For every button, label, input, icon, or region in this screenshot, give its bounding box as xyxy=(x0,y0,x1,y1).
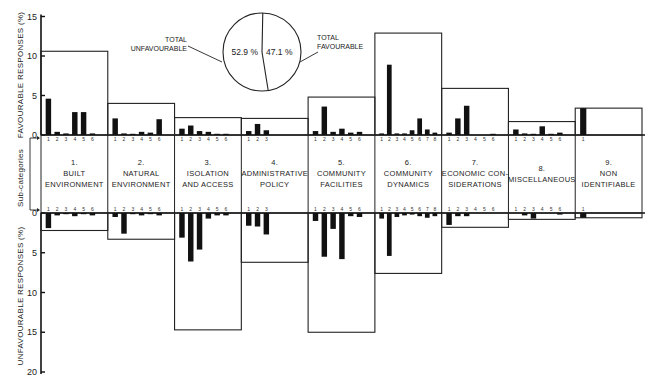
unfavourable-bar xyxy=(417,213,422,216)
subcategory-number: 4 xyxy=(140,136,143,142)
pie-label-unfavourable: UNFAVOURABLE xyxy=(131,45,188,52)
subcategory-number: 3 xyxy=(332,136,335,142)
favourable-bar xyxy=(330,132,335,135)
unfavourable-bar xyxy=(130,213,135,214)
category-label: 8. xyxy=(538,164,545,173)
subcategory-number: 6 xyxy=(91,136,94,142)
pie-leader-line xyxy=(300,52,318,62)
unfavourable-axis-title: UNFAVOURABLE RESPONSES (%) xyxy=(16,227,25,366)
subcategory-number: 2 xyxy=(256,136,259,142)
unfavourable-bar xyxy=(246,213,251,226)
unfavourable-bar xyxy=(330,213,335,229)
favourable-bar xyxy=(348,133,353,135)
subcategory-number: 1 xyxy=(514,136,517,142)
subcategory-number: 5 xyxy=(483,206,486,212)
favourable-bar xyxy=(139,132,144,135)
category-label: ENVIRONMENT xyxy=(112,180,171,189)
unfavourable-bar xyxy=(255,213,260,227)
sub-category-bars xyxy=(46,65,587,262)
unfavourable-bar xyxy=(387,213,392,256)
favourable-bar xyxy=(387,65,392,135)
unfavourable-bar xyxy=(188,213,193,261)
subcategory-number: 5 xyxy=(82,136,85,142)
pie-unfavourable-percent: 52.9 % xyxy=(232,47,259,57)
subcategory-number: 4 xyxy=(73,206,76,212)
subcategory-number: 6 xyxy=(418,206,421,212)
subcategory-number: 5 xyxy=(349,206,352,212)
unfavourable-bar xyxy=(455,213,460,216)
unfavourable-bar xyxy=(348,213,353,216)
favourable-bar xyxy=(112,118,117,135)
favourable-bar xyxy=(357,132,362,135)
favourable-bar xyxy=(90,133,95,135)
category-label: COMMUNITY xyxy=(384,169,433,178)
unfavourable-total-box xyxy=(375,213,442,273)
favourable-bar xyxy=(197,131,202,135)
subcategory-number: 4 xyxy=(403,206,406,212)
subcategory-number: 4 xyxy=(341,206,344,212)
subcategory-number: 1 xyxy=(448,136,451,142)
subcategory-number: 5 xyxy=(483,136,486,142)
pie-divider xyxy=(262,13,263,52)
category-label: ENVIRONMENT xyxy=(45,180,104,189)
favourable-bar xyxy=(395,133,400,135)
pie-label-unfavourable: TOTAL xyxy=(165,36,187,43)
pie-favourable-percent: 47.1 % xyxy=(266,47,293,57)
category-label: MISCELLANEOUS xyxy=(508,175,576,184)
category-label: ISOLATION xyxy=(187,169,229,178)
category-label: 4. xyxy=(271,158,278,167)
subcategory-number: 1 xyxy=(247,136,250,142)
unfavourable-bar xyxy=(464,213,469,216)
category-label: 1. xyxy=(71,158,78,167)
favourable-bar xyxy=(522,133,527,135)
subcategory-number: 2 xyxy=(456,136,459,142)
unfavourable-bar xyxy=(197,213,202,250)
category-label: 5. xyxy=(338,158,345,167)
subcategory-number: 3 xyxy=(131,206,134,212)
unfavourable-bar xyxy=(357,213,362,217)
subcategory-number: 1 xyxy=(582,136,585,142)
subcategory-number: 3 xyxy=(532,136,535,142)
favourable-total-box xyxy=(442,88,509,135)
subcategory-number: 6 xyxy=(225,206,228,212)
subcategory-number: 5 xyxy=(216,206,219,212)
subcategory-number: 5 xyxy=(411,206,414,212)
unfavourable-bar xyxy=(410,213,415,215)
subcategory-number: 4 xyxy=(474,136,477,142)
unfavourable-bar xyxy=(156,213,161,215)
category-label: ECONOMIC CON- xyxy=(442,169,509,178)
category-label: 9. xyxy=(605,158,612,167)
subcategory-number: 3 xyxy=(465,136,468,142)
subcategory-number: 3 xyxy=(198,206,201,212)
subcategory-number: 3 xyxy=(131,136,134,142)
category-labels: 1122334455661.BUILTENVIRONMENT1122334455… xyxy=(45,136,636,212)
subcategory-number: 3 xyxy=(465,206,468,212)
favourable-bar xyxy=(513,129,518,135)
subcategory-number: 7 xyxy=(426,206,429,212)
subcategory-number: 1 xyxy=(314,136,317,142)
subcategory-number: 1 xyxy=(181,206,184,212)
favourable-total-box xyxy=(375,33,442,135)
favourable-bar xyxy=(402,133,407,135)
chart-canvas: 05101505101520FAVOURABLE RESPONSES (%)UN… xyxy=(0,0,655,390)
favourable-bar xyxy=(339,129,344,135)
category-label: DYNAMICS xyxy=(387,180,429,189)
subcategory-number: 3 xyxy=(395,136,398,142)
unfavourable-bar xyxy=(446,213,451,225)
subcategory-number: 4 xyxy=(73,136,76,142)
subcategory-number: 3 xyxy=(65,206,68,212)
unfavourable-bar xyxy=(54,213,59,215)
subcategory-number: 6 xyxy=(418,136,421,142)
category-label: NON xyxy=(600,169,618,178)
category-label: 3. xyxy=(205,158,212,167)
subcategory-number: 6 xyxy=(558,206,561,212)
category-label: BUILT xyxy=(63,169,85,178)
subcategory-number: 6 xyxy=(158,136,161,142)
subcategory-number: 4 xyxy=(140,206,143,212)
favourable-bar xyxy=(379,133,384,135)
favourable-bar xyxy=(179,129,184,135)
unfavourable-bar xyxy=(206,213,211,219)
favourable-bar xyxy=(148,133,153,135)
favourable-bar xyxy=(46,99,51,135)
subcategory-number: 1 xyxy=(47,136,50,142)
